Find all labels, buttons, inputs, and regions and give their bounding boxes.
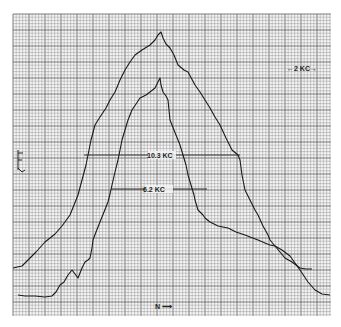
outer-width-label: 10.3 KC: [147, 152, 173, 159]
scale-bar-label: ←2 KC→: [287, 65, 317, 72]
bottom-axis-marker: N ⟶: [155, 303, 172, 310]
spectrum-chart: 10.3 KC 6.2 KC ←2 KC→ N ⟶: [0, 0, 341, 327]
inner-width-label: 6.2 KC: [143, 186, 165, 193]
